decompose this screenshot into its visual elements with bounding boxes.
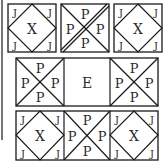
corner-letter: J bbox=[153, 40, 158, 51]
corner-letter: J bbox=[149, 148, 154, 159]
p-letter: P bbox=[98, 129, 107, 144]
center-letter: X bbox=[133, 21, 143, 37]
tile-row1-middle[interactable]: P P P P bbox=[61, 4, 109, 52]
center-letter: X bbox=[129, 128, 139, 144]
corner-letter: J bbox=[153, 7, 158, 18]
p-letter: P bbox=[36, 90, 45, 105]
corner-letter: J bbox=[47, 40, 52, 51]
tile-row2-right[interactable]: P P P P bbox=[110, 58, 158, 106]
tile-row2-middle[interactable]: E bbox=[82, 75, 92, 91]
corner-letter: J bbox=[47, 7, 52, 18]
p-letter: P bbox=[83, 113, 92, 128]
corner-letter: J bbox=[149, 114, 154, 125]
corner-letter: J bbox=[114, 114, 119, 125]
corner-letter: J bbox=[20, 114, 25, 125]
corner-letter: J bbox=[55, 148, 60, 159]
center-letter: X bbox=[35, 128, 45, 144]
corner-letter: J bbox=[12, 40, 17, 51]
corner-letter: J bbox=[20, 148, 25, 159]
tile-row3-middle[interactable]: P P P P bbox=[64, 111, 110, 160]
letter-grid-puzzle: X J J J J P P P P X J J J J P P P P E bbox=[0, 0, 164, 164]
p-letter: P bbox=[83, 144, 92, 159]
p-letter: P bbox=[130, 90, 139, 105]
p-letter: P bbox=[68, 129, 77, 144]
p-letter: P bbox=[21, 76, 30, 91]
corner-letter: J bbox=[114, 148, 119, 159]
p-letter: P bbox=[36, 61, 45, 76]
p-letter: P bbox=[81, 7, 90, 22]
corner-letter: J bbox=[118, 40, 123, 51]
tile-row2-left[interactable]: P P P P bbox=[16, 58, 64, 106]
corner-letter: J bbox=[55, 114, 60, 125]
tile-row1-right[interactable]: X J J J J bbox=[114, 4, 162, 52]
corner-letter: J bbox=[12, 7, 17, 18]
p-letter: P bbox=[115, 76, 124, 91]
center-letter: X bbox=[27, 21, 37, 37]
center-letter: E bbox=[82, 75, 92, 91]
p-letter: P bbox=[66, 22, 75, 37]
p-letter: P bbox=[130, 61, 139, 76]
p-letter: P bbox=[51, 76, 60, 91]
corner-letter: J bbox=[118, 7, 123, 18]
p-letter: P bbox=[96, 22, 105, 37]
tile-row1-left[interactable]: X J J J J bbox=[8, 4, 56, 52]
p-letter: P bbox=[81, 36, 90, 51]
p-letter: P bbox=[145, 76, 154, 91]
